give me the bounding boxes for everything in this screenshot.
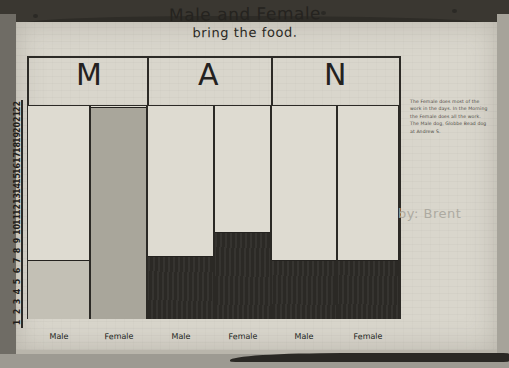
header-band-divider [147, 56, 149, 106]
bar-outline [27, 106, 90, 319]
plot-area [27, 106, 401, 319]
photo-bottom-shadow [230, 353, 509, 362]
bar-outline [90, 106, 147, 319]
x-axis-label: Male [36, 332, 80, 341]
bar-fill [338, 260, 398, 319]
byline: by: Brent [398, 206, 461, 221]
bar-column [214, 106, 271, 319]
y-axis-tick-labels: 22212019181716151413121110987654321 [8, 102, 28, 328]
bar-outline [271, 106, 337, 319]
x-axis-label: Female [96, 332, 140, 342]
handwritten-note: The Female does most of thework in the d… [410, 98, 506, 135]
x-axis-label: Male [158, 332, 202, 341]
note-line: work in the days. In the Morning [410, 105, 506, 112]
chart-title-line-1: Male and Female [130, 3, 360, 26]
header-letter: A [198, 60, 219, 90]
bar-chart: MAN [27, 56, 401, 326]
bar-fill [148, 256, 213, 319]
pin-dot [33, 14, 38, 18]
header-letter-band: MAN [27, 56, 401, 106]
bar-fill [272, 260, 336, 319]
y-axis-tick: 1 [13, 313, 22, 331]
bar-outline [337, 106, 399, 319]
photo-right-shadow [497, 14, 509, 354]
chart-title-line-2: bring the food. [130, 24, 360, 41]
header-letter: M [76, 60, 102, 90]
bar-outline [214, 106, 271, 319]
bar-fill [215, 232, 270, 319]
x-axis-label: Female [346, 332, 390, 342]
bar-column [337, 106, 399, 319]
note-line: at Andrew S. [410, 128, 506, 135]
bar-column [271, 106, 337, 319]
pin-dot [452, 9, 457, 13]
bar-outline [147, 106, 214, 319]
header-band-divider [271, 56, 273, 106]
x-axis-label: Male [282, 332, 326, 341]
bar-column [27, 106, 90, 319]
screenshot-stage: Male and Female bring the food. 22212019… [0, 0, 509, 368]
bar-fill [28, 260, 89, 319]
header-letter: N [324, 60, 346, 90]
bar-column [147, 106, 214, 319]
bar-fill [91, 107, 146, 319]
x-axis-label: Female [220, 332, 264, 342]
note-line: The Male dog, Globbe Bead dog [410, 120, 506, 127]
note-line: The Female does most of the [410, 98, 506, 105]
bar-column [90, 106, 147, 319]
chart-title-block: Male and Female bring the food. [130, 4, 360, 40]
note-line: the Female does all the work. [410, 113, 506, 120]
